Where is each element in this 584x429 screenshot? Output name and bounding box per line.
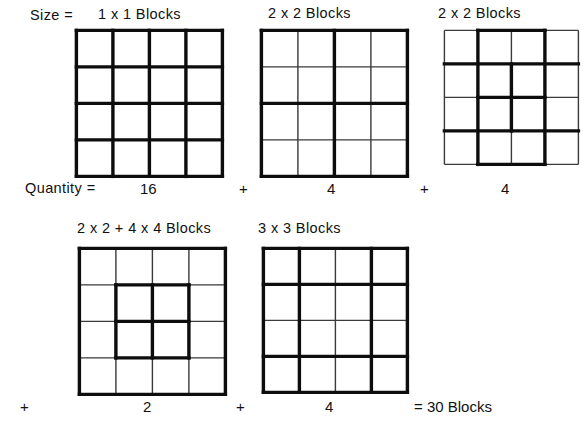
grid-4-lattice — [76, 245, 229, 398]
grid-4-quantity: 2 — [143, 398, 151, 415]
grid-1-lattice — [73, 27, 226, 180]
grid-2-size-label: 2 x 2 Blocks — [268, 5, 351, 21]
quantity-row-label: Quantity = — [25, 180, 96, 196]
grid-2-lattice — [258, 27, 411, 180]
diagram-canvas: Size = 1 x 1 Blocks 2 x 2 Blocks 2 x 2 B… — [0, 0, 584, 429]
grid-1-quantity: 16 — [140, 180, 157, 197]
total-blocks-label: = 30 Blocks — [414, 398, 492, 415]
block-grid-1 — [73, 27, 226, 184]
row1-plus-1: + — [239, 180, 248, 197]
grid-3-size-label: 2 x 2 Blocks — [438, 5, 521, 21]
grid-3-lattice — [441, 27, 582, 168]
grid-5-quantity: 4 — [325, 398, 333, 415]
row2-plus-1: + — [20, 398, 29, 415]
grid-2-quantity: 4 — [327, 180, 335, 197]
grid-4-size-label: 2 x 2 + 4 x 4 Blocks — [77, 220, 211, 236]
grid-5-lattice — [260, 245, 411, 396]
block-grid-3 — [441, 27, 582, 172]
size-row-label: Size = — [30, 7, 73, 23]
grid-3-quantity: 4 — [501, 180, 509, 197]
block-grid-5 — [260, 245, 411, 400]
grid-5-size-label: 3 x 3 Blocks — [258, 220, 341, 236]
row1-plus-2: + — [420, 180, 429, 197]
block-grid-2 — [258, 27, 411, 184]
block-grid-4 — [76, 245, 229, 402]
grid-1-size-label: 1 x 1 Blocks — [98, 6, 181, 22]
row2-plus-2: + — [236, 398, 245, 415]
